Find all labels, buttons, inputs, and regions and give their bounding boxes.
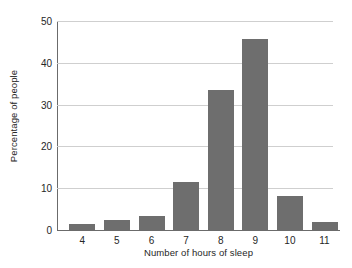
bar-10 xyxy=(277,196,303,230)
bar-4 xyxy=(69,224,95,230)
y-tick-label-30: 30 xyxy=(41,99,52,110)
bar-5 xyxy=(104,220,130,230)
y-tick-label-50: 50 xyxy=(41,16,52,27)
bar-chart: Percentage of people 50 40 30 20 10 0 xyxy=(0,0,352,268)
plot-area: 50 40 30 20 10 0 xyxy=(57,21,333,230)
x-tick-label-8: 8 xyxy=(218,235,224,246)
bar-8 xyxy=(208,90,234,230)
x-tick-label-6: 6 xyxy=(149,235,155,246)
y-tick-label-0: 0 xyxy=(46,225,52,236)
x-tick-label-4: 4 xyxy=(80,235,86,246)
bar-6 xyxy=(139,216,165,230)
x-tick-label-7: 7 xyxy=(183,235,189,246)
x-tick-label-11: 11 xyxy=(319,235,329,246)
y-tick-label-40: 40 xyxy=(41,57,52,68)
x-tick-label-9: 9 xyxy=(253,235,259,246)
y-axis-title: Percentage of people xyxy=(2,1,24,231)
x-tick-label-5: 5 xyxy=(114,235,120,246)
bar-9 xyxy=(242,39,268,230)
x-axis-line xyxy=(57,230,340,231)
y-tick-label-10: 10 xyxy=(41,183,52,194)
bar-7 xyxy=(173,182,199,230)
x-tick-label-10: 10 xyxy=(284,235,295,246)
x-axis-title: Number of hours of sleep xyxy=(57,247,340,258)
bars-layer xyxy=(57,21,333,230)
y-tick-label-20: 20 xyxy=(41,141,52,152)
bar-11 xyxy=(312,222,338,230)
